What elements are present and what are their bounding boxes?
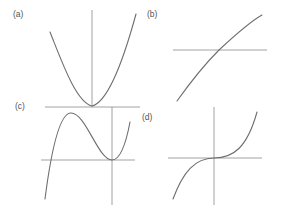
panel-a-parabola-curve [50, 14, 136, 106]
panel-a-label: (a) [13, 9, 24, 19]
panel-a: (a) [13, 9, 140, 107]
panel-c-cubic-curve [45, 113, 130, 199]
panel-b-label: (b) [147, 9, 158, 19]
panel-c-label: (c) [15, 101, 25, 111]
panel-d-cubic-curve [173, 112, 257, 199]
panel-c: (c) [15, 101, 135, 205]
four-panel-function-graphs: (a) (b) (c) (d) [0, 0, 283, 216]
panel-d-label: (d) [142, 112, 153, 122]
panel-b-curve [177, 15, 262, 101]
panel-d: (d) [142, 107, 262, 205]
panel-b: (b) [147, 9, 267, 101]
